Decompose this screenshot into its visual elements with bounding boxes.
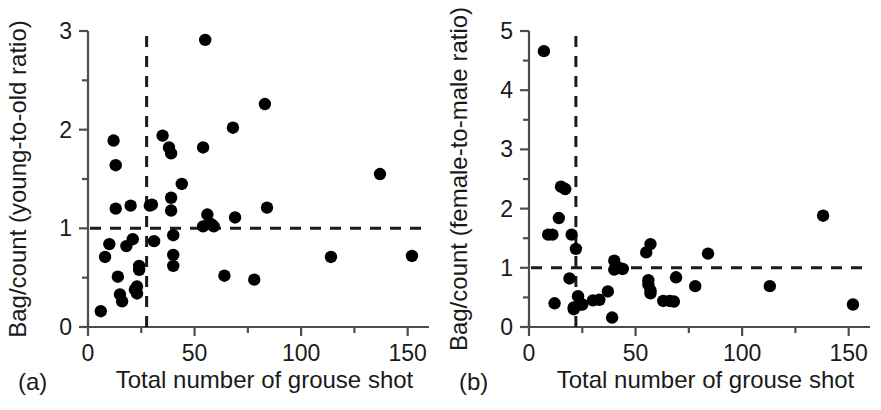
data-point	[570, 243, 582, 255]
x-tick-label: 0	[523, 340, 536, 366]
x-tick-label: 150	[389, 340, 427, 366]
data-point	[563, 272, 575, 284]
data-point	[644, 287, 656, 299]
data-point	[116, 295, 128, 307]
data-point	[325, 251, 337, 263]
data-point	[167, 229, 179, 241]
data-point	[617, 263, 629, 275]
y-tick-label: 0	[59, 314, 72, 340]
figure-container: 0501001500123Total number of grouse shot…	[0, 0, 881, 410]
data-point	[165, 147, 177, 159]
data-point	[199, 34, 211, 46]
data-point	[548, 297, 560, 309]
data-point	[127, 233, 139, 245]
data-point	[112, 270, 124, 282]
data-point	[165, 192, 177, 204]
data-point	[565, 228, 577, 240]
y-tick-label: 0	[500, 314, 513, 340]
x-tick-label: 150	[830, 340, 868, 366]
axes: 050100150012345	[500, 18, 870, 366]
data-point	[110, 202, 122, 214]
x-axis-title: Total number of grouse shot	[116, 366, 414, 393]
data-point	[261, 201, 273, 213]
data-point	[110, 159, 122, 171]
data-point	[176, 178, 188, 190]
y-tick-label: 3	[59, 18, 72, 44]
data-point	[817, 210, 829, 222]
data-point	[606, 311, 618, 323]
axes: 0501001500123	[59, 18, 429, 366]
data-point	[847, 298, 859, 310]
data-point	[764, 280, 776, 292]
data-point	[227, 121, 239, 133]
scatter-plot-b: 050100150012345Total number of grouse sh…	[441, 0, 881, 410]
x-tick-label: 0	[82, 340, 95, 366]
data-point	[248, 273, 260, 285]
data-point	[602, 285, 614, 297]
x-tick-label: 100	[723, 340, 761, 366]
data-point	[197, 141, 209, 153]
data-point	[546, 228, 558, 240]
x-tick-label: 50	[182, 340, 208, 366]
data-points	[95, 34, 419, 318]
data-point	[406, 250, 418, 262]
data-point	[165, 204, 177, 216]
panel-tag: (a)	[18, 368, 47, 395]
data-point	[99, 251, 111, 263]
y-tick-label: 3	[500, 136, 513, 162]
data-point	[208, 220, 220, 232]
data-point	[644, 238, 656, 250]
data-point	[576, 298, 588, 310]
data-point	[133, 264, 145, 276]
y-axis-title: Bag/count (female-to-male ratio)	[445, 7, 472, 351]
y-tick-label: 2	[59, 117, 72, 143]
data-point	[103, 238, 115, 250]
data-point	[156, 129, 168, 141]
panel-tag: (b)	[459, 368, 488, 395]
panel-a: 0501001500123Total number of grouse shot…	[0, 0, 440, 410]
x-tick-label: 50	[623, 340, 649, 366]
data-point	[167, 260, 179, 272]
data-point	[124, 199, 136, 211]
y-tick-label: 5	[500, 18, 513, 44]
scatter-plot-a: 0501001500123Total number of grouse shot…	[0, 0, 440, 410]
data-point	[670, 271, 682, 283]
data-point	[95, 305, 107, 317]
data-point	[229, 211, 241, 223]
x-tick-label: 100	[282, 340, 320, 366]
x-axis-title: Total number of grouse shot	[557, 366, 855, 393]
data-point	[668, 295, 680, 307]
data-point	[131, 287, 143, 299]
y-tick-label: 1	[59, 215, 72, 241]
y-tick-label: 4	[500, 77, 513, 103]
data-points	[538, 45, 859, 324]
data-point	[553, 212, 565, 224]
data-point	[374, 168, 386, 180]
data-point	[148, 235, 160, 247]
data-point	[218, 269, 230, 281]
y-tick-label: 2	[500, 196, 513, 222]
data-point	[559, 183, 571, 195]
y-axis-title: Bag/count (young-to-old ratio)	[4, 20, 31, 338]
data-point	[107, 134, 119, 146]
panel-b: 050100150012345Total number of grouse sh…	[441, 0, 881, 410]
data-point	[146, 198, 158, 210]
data-point	[689, 280, 701, 292]
data-point	[259, 98, 271, 110]
data-point	[538, 45, 550, 57]
data-point	[702, 247, 714, 259]
y-tick-label: 1	[500, 255, 513, 281]
data-point	[167, 249, 179, 261]
